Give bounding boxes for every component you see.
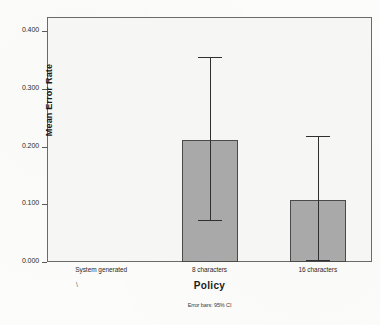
y-tick-label: 0.300 <box>22 84 39 91</box>
y-tick-label: 0.200 <box>22 142 39 149</box>
error-bar-cap-lower <box>198 220 222 221</box>
x-tick-label: System generated <box>47 266 155 273</box>
x-axis-title: Policy <box>47 280 372 291</box>
y-tick-mark <box>42 31 47 32</box>
chart-footnote: Error bars: 95% CI <box>47 302 372 308</box>
error-bar-line <box>210 57 211 220</box>
chart-page: Mean Error Rate 0.0000.1000.2000.3000.40… <box>0 0 380 325</box>
y-axis-title: Mean Error Rate <box>44 45 54 155</box>
y-tick: 0.000 <box>0 262 47 263</box>
y-tick: 0.100 <box>0 204 47 205</box>
y-tick: 0.200 <box>0 147 47 148</box>
y-tick-mark <box>42 204 47 205</box>
y-tick-label: 0.100 <box>22 199 39 206</box>
stray-pen-mark: \ <box>76 281 78 288</box>
x-tick-label: 8 characters <box>155 266 263 273</box>
y-tick-mark <box>42 147 47 148</box>
error-bar-cap-upper <box>306 136 330 137</box>
error-bar-cap-upper <box>198 57 222 58</box>
y-tick-label: 0.400 <box>22 26 39 33</box>
y-tick-mark <box>42 89 47 90</box>
x-tick-label: 16 characters <box>264 266 372 273</box>
y-tick-label: 0.000 <box>22 257 39 264</box>
y-tick-mark <box>42 262 47 263</box>
y-tick: 0.300 <box>0 89 47 90</box>
error-bar-line <box>318 136 319 260</box>
y-tick: 0.400 <box>0 31 47 32</box>
error-bar-cap-lower <box>306 260 330 261</box>
